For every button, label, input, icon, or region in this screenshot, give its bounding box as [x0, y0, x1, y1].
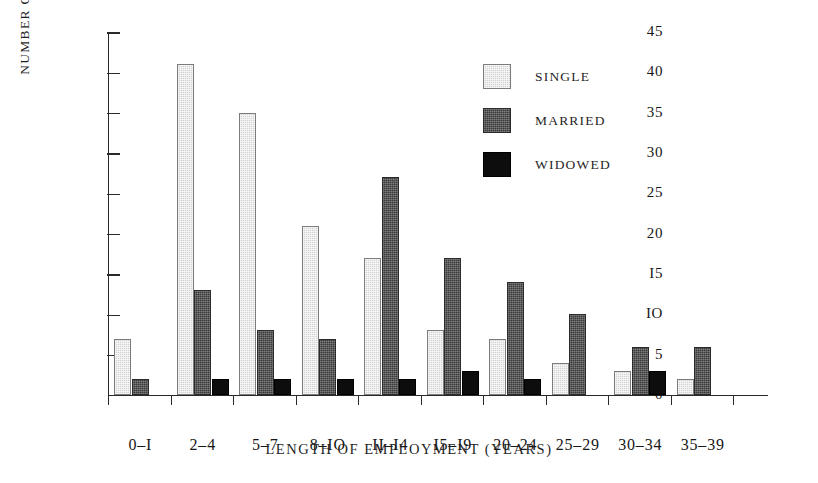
- y-axis-tick: [107, 73, 120, 75]
- legend-label-widowed: WIDOWED: [535, 157, 611, 173]
- bar-widowed-6: [524, 379, 541, 395]
- bar-single-0: [114, 339, 131, 395]
- bar-single-5: [427, 330, 444, 395]
- x-axis-tick: [483, 396, 484, 405]
- bar-widowed-5: [462, 371, 479, 395]
- bar-widowed-8: [649, 371, 666, 395]
- y-axis-tick-label: I5: [617, 265, 663, 282]
- bar-married-5: [444, 258, 461, 395]
- bar-married-3: [319, 339, 336, 395]
- legend-label-single: SINGLE: [535, 69, 590, 85]
- bar-single-1: [177, 64, 194, 395]
- bar-single-2: [239, 113, 256, 395]
- x-axis-tick: [421, 396, 422, 405]
- y-axis-tick: [107, 153, 120, 155]
- bar-married-7: [569, 314, 586, 395]
- y-axis-title: NUMBER OF WORKERS: [10, 0, 40, 125]
- x-axis-tick: [608, 396, 609, 405]
- bar-single-7: [552, 363, 569, 395]
- bar-married-4: [382, 177, 399, 395]
- y-axis-tick-label: IO: [617, 305, 663, 322]
- bar-married-8: [632, 347, 649, 395]
- y-axis-tick: [107, 315, 120, 317]
- bar-single-3: [302, 226, 319, 395]
- bar-married-0: [132, 379, 149, 395]
- bar-widowed-2: [274, 379, 291, 395]
- legend-swatch-single: [483, 64, 511, 89]
- x-axis-tick: [733, 396, 734, 405]
- x-axis-tick: [671, 396, 672, 405]
- y-axis-line: [108, 33, 109, 396]
- legend-item-married: MARRIED: [483, 102, 713, 139]
- legend-swatch-married: [483, 108, 511, 133]
- bar-married-9: [694, 347, 711, 395]
- bar-married-6: [507, 282, 524, 395]
- y-axis-tick-label: 45: [617, 23, 663, 40]
- x-axis-tick: [171, 396, 172, 405]
- y-axis-tick: [107, 274, 120, 276]
- bar-married-1: [194, 290, 211, 395]
- x-axis-tick: [233, 396, 234, 405]
- x-axis-tick: [358, 396, 359, 405]
- x-axis-tick: [546, 396, 547, 405]
- x-axis-title: LENGTH OF EMPLOYMENT (YEARS): [0, 441, 818, 458]
- bar-single-9: [677, 379, 694, 395]
- y-axis-tick: [107, 32, 120, 34]
- legend-label-married: MARRIED: [535, 113, 606, 129]
- chart-legend: SINGLE MARRIED WIDOWED: [483, 58, 713, 190]
- bar-widowed-4: [399, 379, 416, 395]
- legend-swatch-widowed: [483, 152, 511, 177]
- bar-chart: NUMBER OF WORKERS 05IOI5202530354045 0–I…: [0, 0, 818, 483]
- bar-married-2: [257, 330, 274, 395]
- y-axis-tick: [107, 234, 120, 236]
- y-axis-tick: [107, 113, 120, 115]
- bar-widowed-1: [212, 379, 229, 395]
- x-axis-line: [108, 395, 768, 396]
- y-axis-tick: [107, 194, 120, 196]
- x-axis-tick: [108, 396, 109, 405]
- bar-widowed-3: [337, 379, 354, 395]
- bar-single-8: [614, 371, 631, 395]
- x-axis-tick: [296, 396, 297, 405]
- y-axis-tick-label: 20: [617, 225, 663, 242]
- bar-single-4: [364, 258, 381, 395]
- legend-item-widowed: WIDOWED: [483, 146, 713, 183]
- bar-single-6: [489, 339, 506, 395]
- legend-item-single: SINGLE: [483, 58, 713, 95]
